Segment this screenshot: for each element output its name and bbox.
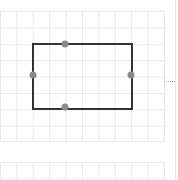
panel-resize-grip-icon[interactable] <box>164 81 175 82</box>
resize-handle-right[interactable] <box>128 72 135 79</box>
resize-handle-bottom[interactable] <box>62 104 69 111</box>
selected-rectangle-shape[interactable] <box>32 43 133 110</box>
drawing-canvas[interactable] <box>0 0 178 180</box>
side-panel-divider[interactable] <box>175 0 176 180</box>
canvas-grid-lower-strip[interactable] <box>0 162 165 180</box>
resize-handle-left[interactable] <box>30 72 37 79</box>
resize-handle-top[interactable] <box>62 41 69 48</box>
